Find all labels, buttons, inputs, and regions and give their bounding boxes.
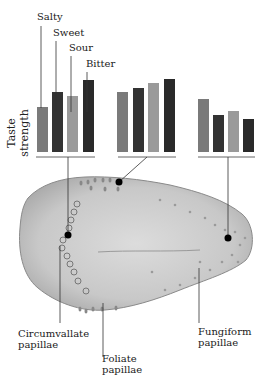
bar-bitter: [243, 119, 254, 152]
label-bitter: Bitter: [86, 58, 115, 69]
label-sweet: Sweet: [53, 27, 84, 38]
bar-salty: [198, 99, 209, 152]
label-fungiform: Fungiform papillae: [198, 326, 251, 348]
bar-group-fungiform: [198, 99, 255, 157]
bar-sweet: [213, 115, 224, 152]
bar-sweet: [52, 92, 63, 152]
taste-leader-lines: [41, 26, 87, 112]
label-sour: Sour: [69, 42, 93, 53]
marker-foliate: [116, 179, 123, 186]
bar-bitter: [164, 79, 175, 152]
y-axis-label: Taste strength: [5, 93, 31, 173]
taste-diagram-graphic: [0, 0, 267, 377]
bar-group-circumvallate: [36, 80, 95, 157]
bar-sour: [228, 111, 239, 152]
tongue-outline: [20, 177, 253, 310]
label-salty: Salty: [37, 11, 63, 22]
bar-group-foliate: [117, 79, 176, 157]
bar-salty: [117, 92, 128, 152]
bar-bitter: [83, 80, 94, 152]
marker-circumvallate: [65, 232, 72, 239]
tongue-illustration: [20, 177, 253, 314]
label-circumvallate: Circumvallate papillae: [18, 328, 89, 350]
bar-sour: [148, 83, 159, 152]
bar-sweet: [133, 88, 144, 152]
marker-fungiform: [225, 235, 232, 242]
bar-sour: [67, 96, 78, 152]
label-foliate: Foliate papillae: [102, 353, 142, 375]
bar-salty: [37, 107, 48, 152]
